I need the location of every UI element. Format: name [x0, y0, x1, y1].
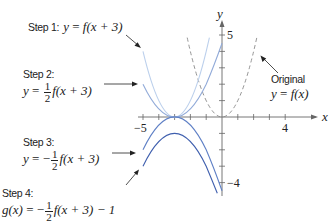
annotation-arrows: [104, 35, 278, 185]
step3-fraction: 12: [51, 149, 59, 172]
step1-lhs: y: [63, 19, 69, 34]
step2-rhs: f(x + 3): [52, 83, 92, 98]
curve-step4: [143, 133, 217, 193]
y-tick-min-label: −4: [227, 177, 240, 189]
step3-label: Step 3: y = −12f(x + 3): [23, 137, 99, 172]
step2-prefix: Step 2:: [23, 69, 92, 80]
transformation-figure: y x −5 4 5 −4 Step 1: y = f(x + 3) Step …: [0, 0, 332, 222]
original-rhs: f(x): [291, 86, 309, 101]
step4-prefix: Step 4:: [2, 188, 115, 199]
y-axis-label: y: [217, 7, 223, 20]
step2-label: Step 2: y = 12f(x + 3): [23, 69, 92, 104]
y-tick-max-label: 5: [227, 29, 233, 41]
x-tick-min-label: −5: [134, 122, 147, 134]
step2-lhs: y: [23, 83, 29, 98]
step4-rhs: f(x + 3) − 1: [54, 202, 116, 217]
step4-fraction: 12: [45, 200, 53, 223]
step3-sign: −: [43, 151, 50, 166]
curve-step3: [143, 117, 222, 191]
x-axis-label: x: [322, 110, 328, 123]
step2-fraction: 12: [44, 81, 52, 104]
step1-rhs: f(x + 3): [83, 19, 123, 34]
step4-label: Step 4: g(x) = −12f(x + 3) − 1: [2, 188, 115, 222]
original-prefix: Original: [271, 74, 309, 85]
step3-lhs: y: [23, 151, 29, 166]
curve-step2: [143, 43, 222, 117]
original-lhs: y: [271, 86, 277, 101]
x-tick-max-label: 4: [282, 122, 288, 134]
step4-sign: −: [37, 202, 44, 217]
step3-rhs: f(x + 3): [59, 151, 99, 166]
arrow-step4: [126, 172, 137, 185]
curve-step1: [143, 38, 209, 117]
step4-lhs: g(x): [2, 202, 23, 217]
step1-prefix: Step 1:: [28, 21, 59, 33]
y-axis: [220, 20, 225, 196]
arrow-original: [263, 58, 278, 73]
step1-label: Step 1: y = f(x + 3): [28, 18, 123, 34]
x-axis: [138, 115, 318, 120]
step3-prefix: Step 3:: [23, 137, 99, 148]
original-label: Original y = f(x): [271, 74, 309, 100]
